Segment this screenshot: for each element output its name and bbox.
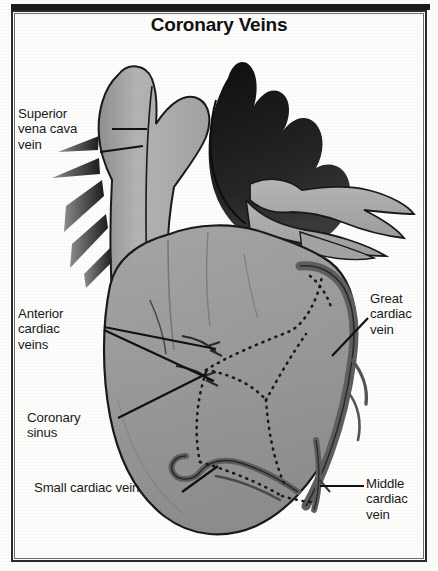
label-anterior-cardiac-veins: Anterior cardiac veins (18, 306, 106, 352)
label-great-cardiac-vein: Great cardiac vein (370, 291, 434, 337)
aortic-arch (209, 62, 351, 247)
label-coronary-sinus: Coronary sinus (27, 410, 119, 441)
label-middle-cardiac-vein: Middle cardiac vein (366, 476, 432, 522)
label-superior-vena-cava-vein: Superior vena cava vein (18, 106, 114, 152)
label-small-cardiac-vein: Small cardiac vein (34, 480, 184, 495)
coronary-veins-figure: Coronary Veins (0, 0, 438, 571)
